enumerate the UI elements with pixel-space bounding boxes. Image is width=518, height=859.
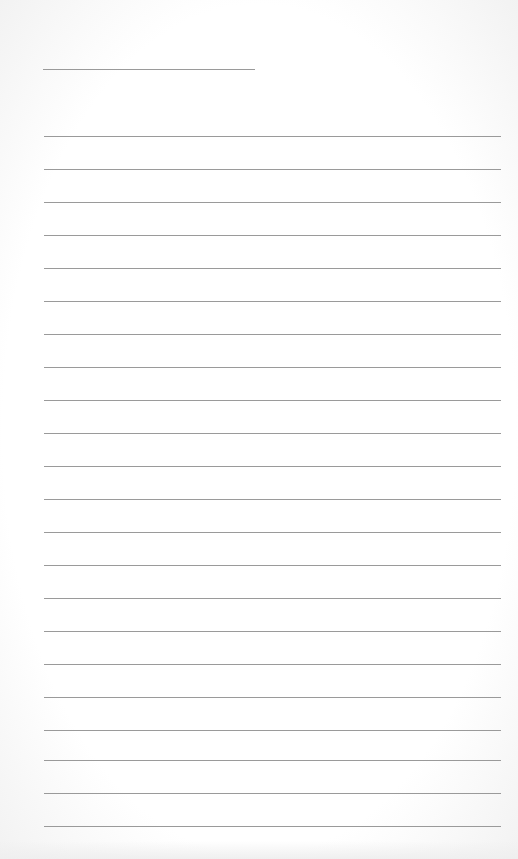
ruled-line (44, 466, 501, 467)
ruled-line (44, 598, 501, 599)
ruled-line (44, 433, 501, 434)
ruled-line (44, 730, 501, 731)
ruled-line (44, 631, 501, 632)
title-line (43, 69, 255, 70)
ruled-line (44, 334, 501, 335)
ruled-line (44, 793, 501, 794)
ruled-line (44, 268, 501, 269)
ruled-line (44, 202, 501, 203)
ruled-line (44, 760, 501, 761)
notepad-page (0, 0, 518, 859)
ruled-line (44, 169, 501, 170)
ruled-line (44, 826, 501, 827)
ruled-line (44, 664, 501, 665)
ruled-line (44, 136, 501, 137)
page-bottom-edge (0, 841, 518, 859)
ruled-line (44, 697, 501, 698)
ruled-line (44, 235, 501, 236)
ruled-line (44, 565, 501, 566)
ruled-line (44, 400, 501, 401)
ruled-line (44, 499, 501, 500)
ruled-line (44, 532, 501, 533)
ruled-line (44, 301, 501, 302)
ruled-line (44, 367, 501, 368)
